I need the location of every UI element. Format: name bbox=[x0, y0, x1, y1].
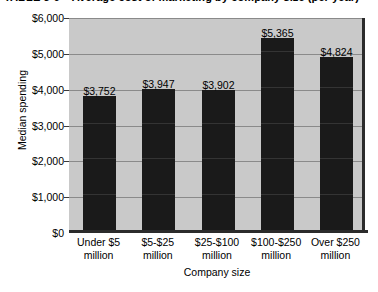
x-tick-label-line: $25-$100 bbox=[184, 236, 249, 249]
bar-value-label: $4,824 bbox=[311, 47, 362, 58]
bar bbox=[261, 38, 294, 230]
gridline-over-bar bbox=[320, 194, 353, 195]
gridline-over-bar bbox=[320, 158, 353, 159]
x-tick-label-line: million bbox=[125, 249, 190, 262]
x-tick-label-line: million bbox=[303, 249, 368, 262]
gridline-over-bar bbox=[261, 194, 294, 195]
gridline-over-bar bbox=[261, 158, 294, 159]
gridline-over-bar bbox=[202, 194, 235, 195]
y-tick-label: $1,000 bbox=[8, 192, 64, 202]
gridline-over-bar bbox=[261, 51, 294, 52]
gridline-over-bar bbox=[83, 123, 116, 124]
bar-series: $3,752$3,947$3,902$5,365$4,824 bbox=[69, 18, 362, 230]
gridline-over-bar bbox=[320, 87, 353, 88]
x-tick-label-line: million bbox=[66, 249, 131, 262]
gridline-over-bar bbox=[202, 123, 235, 124]
bar-value-label: $3,752 bbox=[74, 86, 125, 97]
x-tick-label: $25-$100million bbox=[184, 236, 249, 261]
y-tick-label: $5,000 bbox=[8, 49, 64, 59]
x-axis-title: Company size bbox=[69, 266, 365, 278]
bar-chart: Median spending $0$1,000$2,000$3,000$4,0… bbox=[0, 0, 378, 292]
x-tick-label-line: million bbox=[244, 249, 309, 262]
x-axis-tick-labels: Under $5million$5-$25million$25-$100mill… bbox=[69, 236, 365, 270]
x-tick-label-line: Over $250 bbox=[303, 236, 368, 249]
x-tick-label: Under $5million bbox=[66, 236, 131, 261]
bar-value-label: $3,902 bbox=[193, 80, 244, 91]
bar-value-label: $5,365 bbox=[252, 28, 303, 39]
y-tick-label: $6,000 bbox=[8, 13, 64, 23]
bar-value-label: $3,947 bbox=[133, 79, 184, 90]
bar bbox=[83, 96, 116, 230]
x-tick-label-line: million bbox=[184, 249, 249, 262]
gridline-over-bar bbox=[142, 123, 175, 124]
bar bbox=[142, 89, 175, 230]
x-tick-label-line: $100-$250 bbox=[244, 236, 309, 249]
gridline-over-bar bbox=[142, 194, 175, 195]
x-tick-label: $5-$25million bbox=[125, 236, 190, 261]
y-tick-label: $4,000 bbox=[8, 85, 64, 95]
x-tick-label-line: $5-$25 bbox=[125, 236, 190, 249]
bar bbox=[202, 90, 235, 230]
x-tick-label: $100-$250million bbox=[244, 236, 309, 261]
y-tick-label: $3,000 bbox=[8, 121, 64, 131]
gridline-over-bar bbox=[320, 123, 353, 124]
gridline-over-bar bbox=[83, 194, 116, 195]
gridline-over-bar bbox=[261, 87, 294, 88]
y-tick-label: $0 bbox=[8, 228, 64, 238]
y-axis-tick-labels: $0$1,000$2,000$3,000$4,000$5,000$6,000 bbox=[6, 0, 64, 292]
gridline-over-bar bbox=[261, 123, 294, 124]
gridline-over-bar bbox=[202, 158, 235, 159]
x-tick-label: Over $250million bbox=[303, 236, 368, 261]
plot-area: $3,752$3,947$3,902$5,365$4,824 bbox=[69, 18, 365, 233]
gridline-over-bar bbox=[83, 158, 116, 159]
x-axis-line bbox=[69, 230, 368, 233]
y-tick-label: $2,000 bbox=[8, 156, 64, 166]
bar bbox=[320, 57, 353, 230]
gridline-over-bar bbox=[142, 158, 175, 159]
x-tick-label-line: Under $5 bbox=[66, 236, 131, 249]
